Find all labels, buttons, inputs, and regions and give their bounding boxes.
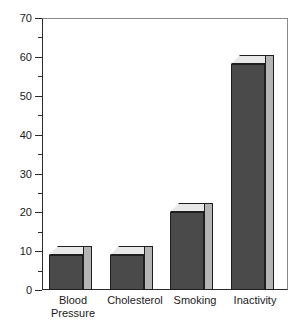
- x-tick-label-smoking: Smoking: [166, 294, 224, 307]
- x-tick-label-blood-pressure: Blood Pressure: [42, 294, 104, 320]
- bar-front-face: [110, 255, 144, 290]
- bar-front-face: [49, 255, 83, 290]
- bar-series: [0, 0, 304, 332]
- bar-chart: 70 60 50 40 30 20 10 0: [0, 0, 304, 332]
- x-tick-label-inactivity: Inactivity: [225, 294, 285, 307]
- bar-front-face: [170, 212, 204, 290]
- bar-side-face: [83, 246, 92, 290]
- x-axis-labels: Blood Pressure Cholesterol Smoking Inact…: [42, 294, 288, 332]
- bar-front-face: [231, 64, 265, 290]
- x-tick-label-cholesterol: Cholesterol: [102, 294, 168, 307]
- bar-side-face: [204, 203, 213, 290]
- bar-side-face: [265, 55, 274, 290]
- bar-side-face: [144, 246, 153, 290]
